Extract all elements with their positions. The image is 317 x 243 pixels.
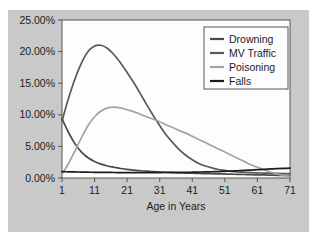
x-axis-tick-label: 71 [284, 184, 296, 196]
y-axis-tick-label: 10.00% [19, 108, 55, 120]
line-chart: 0.00%5.00%10.00%15.00%20.00%25.00% 11121… [8, 10, 309, 232]
x-axis: 111213141516171 [59, 178, 296, 196]
y-axis-tick-label: 0.00% [25, 172, 55, 184]
y-axis-tick-label: 25.00% [19, 14, 55, 26]
x-axis-tick-label: 31 [154, 184, 166, 196]
legend-label-poisoning: Poisoning [229, 61, 275, 73]
chart-figure: 0.00%5.00%10.00%15.00%20.00%25.00% 11121… [8, 10, 309, 232]
x-axis-tick-label: 1 [59, 184, 65, 196]
y-axis-tick-label: 5.00% [25, 140, 55, 152]
legend-label-falls: Falls [229, 75, 251, 87]
y-axis-tick-label: 20.00% [19, 45, 55, 57]
legend-label-mv-traffic: MV Traffic [229, 47, 276, 59]
x-axis-tick-label: 41 [186, 184, 198, 196]
legend-label-drowning: Drowning [229, 33, 274, 45]
chart-legend: DrowningMV TrafficPoisoningFalls [204, 27, 288, 89]
x-axis-tick-label: 21 [121, 184, 133, 196]
y-axis: 0.00%5.00%10.00%15.00%20.00%25.00% [19, 14, 62, 184]
x-axis-tick-label: 61 [252, 184, 264, 196]
y-axis-tick-label: 15.00% [19, 77, 55, 89]
x-axis-tick-label: 11 [89, 184, 100, 196]
x-axis-title: Age in Years [147, 200, 206, 212]
x-axis-tick-label: 51 [219, 184, 231, 196]
